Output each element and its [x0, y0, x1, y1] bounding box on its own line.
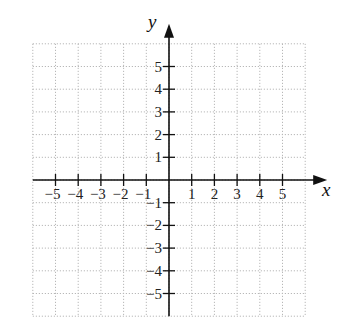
x-tick-label: 2	[211, 186, 219, 202]
y-tick-label: −5	[146, 286, 162, 302]
y-tick-label: −1	[146, 195, 162, 211]
x-tick-label: 4	[256, 186, 264, 202]
y-tick-label: 5	[155, 59, 163, 75]
y-axis-label: y	[146, 11, 157, 32]
x-tick-label: −4	[67, 186, 83, 202]
y-tick-label: 1	[155, 149, 163, 165]
x-tick-label: 3	[233, 186, 241, 202]
x-tick-label: −2	[113, 186, 129, 202]
x-tick-label: −3	[90, 186, 106, 202]
y-tick-label: −2	[146, 217, 162, 233]
x-axis-label: x	[321, 179, 331, 200]
y-tick-label: −3	[146, 240, 162, 256]
y-axis-arrow-icon	[164, 24, 174, 38]
x-tick-label: 1	[188, 186, 196, 202]
y-tick-label: 2	[155, 127, 163, 143]
y-tick-label: 4	[155, 81, 163, 97]
coordinate-plane: −5−4−3−2−112345−5−4−3−2−112345 x y	[0, 0, 344, 334]
y-tick-label: 3	[155, 104, 163, 120]
y-tick-label: −4	[146, 263, 162, 279]
x-tick-label: −5	[45, 186, 61, 202]
axes	[33, 24, 327, 316]
x-tick-label: 5	[279, 186, 287, 202]
